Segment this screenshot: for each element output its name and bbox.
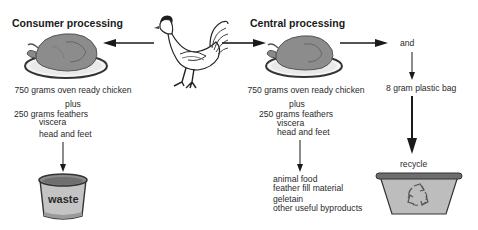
arrow-to-byproducts [296,140,304,172]
roast-chicken-icon [264,32,344,80]
recycle-label: recycle [400,159,427,169]
arrow-to-waste [59,142,67,172]
right-line-2: plus [242,99,352,109]
arrow-to-recycle [406,96,418,154]
arrow-to-central [222,38,266,48]
central-processing-title: Central processing [250,17,345,29]
and-connector: and [400,38,414,48]
right-line-5: head and feet [277,127,330,137]
left-line-5: head and feet [39,129,92,139]
plastic-bag-label: 8 gram plastic bag [386,83,456,93]
live-chicken-icon [148,8,230,94]
left-line-4: viscera [39,117,66,127]
byproduct-2: feather fill material [273,183,343,193]
right-line-1: 750 grams oven ready chicken [242,85,370,95]
left-line-1: 750 grams oven ready chicken [10,85,136,95]
arrow-to-packaging [340,38,388,48]
roast-chicken-icon [22,28,107,80]
left-line-2: plus [10,99,136,109]
recycle-bin-icon [374,172,464,218]
waste-label: waste [48,193,79,205]
byproduct-4: other useful byproducts [273,203,362,213]
arrow-to-bag [408,52,416,80]
